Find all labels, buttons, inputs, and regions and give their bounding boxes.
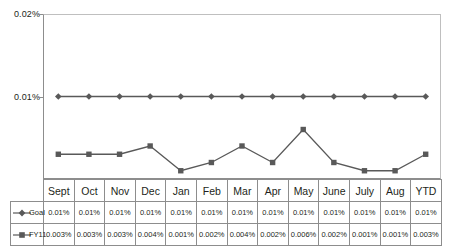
- legend-entry-goal[interactable]: Goal: [11, 202, 44, 224]
- y-tick-label-mid: 0.01%: [14, 92, 40, 102]
- data-table: SeptOctNovDecJanFebMarAprMayJuneJulyAugY…: [10, 179, 441, 242]
- table-column-header: Apr: [258, 180, 289, 202]
- table-cell: 0.01%: [319, 202, 350, 224]
- data-point-diamond: [300, 93, 307, 100]
- table-row: Goal0.01%0.01%0.01%0.01%0.01%0.01%0.01%0…: [11, 202, 442, 224]
- data-point-diamond: [86, 93, 93, 100]
- table-cell: 0.004%: [135, 224, 166, 246]
- data-table-grid: SeptOctNovDecJanFebMarAprMayJuneJulyAugY…: [10, 179, 442, 246]
- table-column-header: Jan: [166, 180, 197, 202]
- table-cell: 0.004%: [227, 224, 258, 246]
- data-point-diamond: [116, 93, 123, 100]
- table-cell: 0.01%: [380, 202, 411, 224]
- table-cell: 0.003%: [44, 224, 75, 246]
- legend-label: Goal: [11, 208, 45, 217]
- table-cell: 0.01%: [196, 202, 227, 224]
- table-cell: 0.002%: [319, 224, 350, 246]
- data-point-square: [178, 168, 183, 173]
- table-cell: 0.01%: [227, 202, 258, 224]
- table-cell: 0.001%: [166, 224, 197, 246]
- data-point-diamond: [147, 93, 154, 100]
- table-header-row: SeptOctNovDecJanFebMarAprMayJuneJulyAugY…: [11, 180, 442, 202]
- data-point-square: [270, 160, 275, 165]
- table-cell: 0.001%: [380, 224, 411, 246]
- data-point-diamond: [422, 93, 429, 100]
- data-point-diamond: [392, 93, 399, 100]
- y-tick-label-top: 0.02%: [14, 9, 40, 19]
- data-point-diamond: [331, 93, 338, 100]
- data-point-square: [331, 160, 336, 165]
- table-column-header: Feb: [196, 180, 227, 202]
- table-cell: 0.01%: [105, 202, 136, 224]
- table-column-header: Sept: [44, 180, 75, 202]
- data-point-square: [117, 152, 122, 157]
- data-point-diamond: [361, 93, 368, 100]
- table-column-header: Aug: [380, 180, 411, 202]
- legend-label: FY11: [11, 230, 46, 239]
- table-cell: 0.01%: [44, 202, 75, 224]
- table-column-header: July: [349, 180, 380, 202]
- table-cell: 0.006%: [288, 224, 319, 246]
- table-column-header: Dec: [135, 180, 166, 202]
- table-cell: 0.01%: [166, 202, 197, 224]
- data-point-square: [56, 152, 61, 157]
- table-cell: 0.003%: [74, 224, 105, 246]
- table-column-header: May: [288, 180, 319, 202]
- table-cell: 0.01%: [135, 202, 166, 224]
- legend-entry-fy11[interactable]: FY11: [11, 224, 44, 246]
- table-column-header: June: [319, 180, 350, 202]
- data-point-square: [147, 143, 152, 148]
- data-point-square: [209, 160, 214, 165]
- table-cell: 0.002%: [258, 224, 289, 246]
- data-point-square: [301, 127, 306, 132]
- series-line: [58, 130, 425, 171]
- table-cell: 0.01%: [349, 202, 380, 224]
- table-column-header: Mar: [227, 180, 258, 202]
- table-cell: 0.01%: [288, 202, 319, 224]
- table-cell: 0.001%: [349, 224, 380, 246]
- series-fy11: [56, 127, 429, 174]
- table-cell: 0.003%: [411, 224, 442, 246]
- data-point-square: [86, 152, 91, 157]
- table-cell: 0.003%: [105, 224, 136, 246]
- data-point-diamond: [208, 93, 215, 100]
- table-column-header: YTD: [411, 180, 442, 202]
- table-cell: 0.01%: [411, 202, 442, 224]
- series-goal: [55, 93, 429, 100]
- table-cell: 0.01%: [258, 202, 289, 224]
- data-point-square: [392, 168, 397, 173]
- data-point-square: [362, 168, 367, 173]
- table-column-header: Nov: [105, 180, 136, 202]
- data-point-square: [423, 152, 428, 157]
- plot-series-layer: [43, 14, 441, 179]
- table-column-header: Oct: [74, 180, 105, 202]
- chart-figure: 0.02% 0.01% SeptOctNovDecJanFebMarAprMay…: [0, 0, 452, 250]
- data-point-square: [239, 143, 244, 148]
- table-cell: 0.002%: [196, 224, 227, 246]
- table-row: FY110.003%0.003%0.003%0.004%0.001%0.002%…: [11, 224, 442, 246]
- table-cell: 0.01%: [74, 202, 105, 224]
- table-corner-cell: [11, 180, 44, 202]
- data-point-diamond: [239, 93, 246, 100]
- data-point-diamond: [269, 93, 276, 100]
- data-point-diamond: [177, 93, 184, 100]
- data-point-diamond: [55, 93, 62, 100]
